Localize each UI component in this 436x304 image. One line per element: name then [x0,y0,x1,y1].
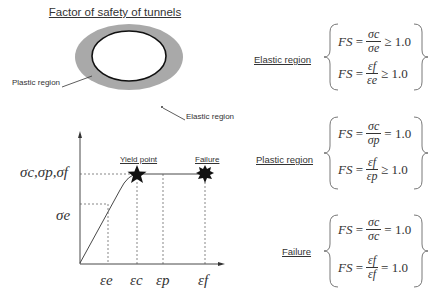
plastic-leader-line [62,76,92,87]
x-tick-eps-c: εc [130,272,143,288]
elastic-fs-strain: FS = εfεe ≥ 1.0 [338,60,408,87]
tunnel-opening [92,31,166,81]
elastic-fs-stress: FS = σcσe ≥ 1.0 [338,28,411,55]
x-tick-eps-p: εp [156,272,170,288]
x-tick-eps-e: εe [100,272,113,288]
yield-point-label: Yield point [120,155,157,164]
plastic-condition-label: Plastic region [256,154,313,165]
tunnel-cross-section [0,0,230,130]
failure-fs-strain: FS = εfεf = 1.0 [338,254,408,281]
failure-burst [196,165,214,183]
right-brace [410,115,430,191]
y-tick-sigma-cpf: σc,σp,σf [20,164,70,180]
x-tick-eps-f: εf [198,272,210,288]
plastic-region-label: Plastic region [12,78,60,87]
failure-condition-label: Failure [282,246,311,257]
elastic-condition-label: Elastic region [254,54,311,65]
right-brace [410,213,430,289]
plastic-fs-strain: FS = εfεp ≥ 1.0 [338,156,408,183]
right-brace [410,22,430,92]
failure-fs-stress: FS = σcσc = 1.0 [338,216,411,243]
plastic-fs-stress: FS = σcσp = 1.0 [338,120,411,147]
stress-strain-curve [80,174,205,263]
elastic-region-label: Elastic region [186,112,234,121]
y-tick-sigma-e: σe [56,207,70,223]
failure-point-label: Failure [195,155,219,164]
elastic-leader-line [163,108,185,120]
